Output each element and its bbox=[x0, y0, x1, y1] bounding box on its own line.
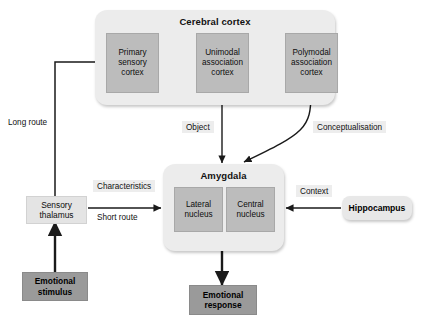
label-conceptualisation: Conceptualisation bbox=[313, 121, 386, 133]
cerebral-cortex-title: Cerebral cortex bbox=[95, 16, 335, 27]
emotional-response-node[interactable]: Emotional response bbox=[189, 285, 257, 315]
lateral-nucleus-box[interactable]: Lateral nucleus bbox=[174, 187, 223, 232]
label-object: Object bbox=[182, 121, 214, 133]
central-nucleus-label: Central nucleus bbox=[227, 200, 274, 220]
emotional-stimulus-label: Emotional stimulus bbox=[23, 276, 87, 297]
label-context: Context bbox=[296, 185, 332, 197]
sensory-thalamus-label: Sensory thalamus bbox=[27, 200, 86, 221]
label-characteristics: Characteristics bbox=[93, 180, 155, 192]
label-long-route: Long route bbox=[8, 118, 47, 127]
sensory-thalamus-node[interactable]: Sensory thalamus bbox=[26, 196, 87, 224]
polymodal-association-cortex-label: Polymodal association cortex bbox=[286, 48, 337, 78]
central-nucleus-box[interactable]: Central nucleus bbox=[226, 187, 275, 232]
label-short-route: Short route bbox=[97, 213, 138, 222]
unimodal-association-cortex-box[interactable]: Unimodal association cortex bbox=[196, 33, 249, 93]
hippocampus-node[interactable]: Hippocampus bbox=[342, 196, 412, 220]
primary-sensory-cortex-label: Primary sensory cortex bbox=[107, 48, 158, 78]
primary-sensory-cortex-box[interactable]: Primary sensory cortex bbox=[106, 33, 159, 93]
amygdala-title: Amygdala bbox=[163, 170, 284, 181]
emotional-response-label: Emotional response bbox=[190, 290, 256, 311]
hippocampus-label: Hippocampus bbox=[349, 203, 406, 213]
emotional-stimulus-node[interactable]: Emotional stimulus bbox=[22, 272, 88, 301]
polymodal-association-cortex-box[interactable]: Polymodal association cortex bbox=[285, 33, 338, 93]
lateral-nucleus-label: Lateral nucleus bbox=[175, 200, 222, 220]
unimodal-association-cortex-label: Unimodal association cortex bbox=[197, 48, 248, 78]
emotion-pathway-diagram: Cerebral cortex Primary sensory cortex U… bbox=[0, 0, 425, 322]
